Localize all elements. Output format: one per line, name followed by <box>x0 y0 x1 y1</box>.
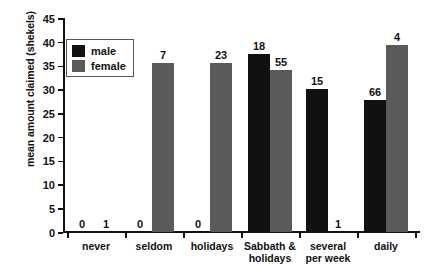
bar-seldom-female: 7 <box>152 63 174 232</box>
y-tick-label-0: 0 <box>49 227 55 239</box>
y-tick-20: 20 <box>58 137 63 139</box>
x-tick-2 <box>183 233 185 238</box>
y-tick-30: 30 <box>58 89 63 91</box>
legend-item-male: male <box>72 43 126 58</box>
x-category-never: never <box>67 240 125 252</box>
x-tick-3 <box>241 233 243 238</box>
y-axis-title: mean amount claimed (shekels) <box>24 0 36 189</box>
bar-several-male: 15 <box>306 89 328 232</box>
x-category-daily: daily <box>357 240 415 252</box>
x-tick-5 <box>357 233 359 238</box>
bar-sabbath-male: 18 <box>248 54 270 232</box>
x-category-sabbath-line1: Sabbath & <box>241 240 299 252</box>
bar-label-never-male: 0 <box>73 218 91 230</box>
x-category-holidays-line1: holidays <box>183 240 241 252</box>
y-tick-label-30: 30 <box>43 84 55 96</box>
x-category-sabbath-holidays: Sabbath & holidays <box>241 240 299 264</box>
y-tick-label-20: 20 <box>43 132 55 144</box>
bar-daily-male: 66 <box>364 100 386 232</box>
y-tick-15: 15 <box>58 161 63 163</box>
x-tick-0 <box>67 233 69 238</box>
y-tick-0: 0 <box>58 232 63 234</box>
x-category-daily-line1: daily <box>357 240 415 252</box>
y-tick-label-35: 35 <box>43 60 55 72</box>
y-axis-line <box>63 18 65 233</box>
y-tick-25: 25 <box>58 113 63 115</box>
legend-swatch-female-icon <box>72 60 85 72</box>
x-category-never-line1: never <box>67 240 125 252</box>
bar-daily-female: 4 <box>386 45 408 232</box>
x-category-seldom: seldom <box>125 240 183 252</box>
y-tick-label-10: 10 <box>43 179 55 191</box>
x-tick-6 <box>415 233 417 238</box>
bar-label-seldom-male: 0 <box>131 218 149 230</box>
bar-label-several-male: 15 <box>311 75 323 87</box>
x-category-seldom-line1: seldom <box>125 240 183 252</box>
x-tick-4 <box>299 233 301 238</box>
x-category-several-per-week: several per week <box>299 240 357 264</box>
bar-label-daily-male: 66 <box>369 86 381 98</box>
x-tick-1 <box>125 233 127 238</box>
bar-label-holidays-male: 0 <box>189 218 207 230</box>
bar-label-daily-female: 4 <box>394 31 400 43</box>
y-tick-35: 35 <box>58 66 63 68</box>
bar-label-holidays-female: 23 <box>215 49 227 61</box>
bar-label-sabbath-male: 18 <box>253 40 265 52</box>
x-category-holidays: holidays <box>183 240 241 252</box>
y-tick-label-25: 25 <box>43 108 55 120</box>
legend-swatch-male-icon <box>72 45 85 57</box>
y-tick-label-15: 15 <box>43 155 55 167</box>
y-tick-label-45: 45 <box>43 13 55 25</box>
y-tick-label-40: 40 <box>43 37 55 49</box>
y-tick-label-5: 5 <box>49 203 55 215</box>
y-tick-40: 40 <box>58 42 63 44</box>
bar-holidays-female: 23 <box>210 63 232 232</box>
bar-label-never-female: 1 <box>97 218 115 230</box>
y-tick-5: 5 <box>58 208 63 210</box>
x-category-several-line2: per week <box>299 252 357 264</box>
bar-label-several-female: 1 <box>329 218 347 230</box>
x-category-several-line1: several <box>299 240 357 252</box>
y-tick-10: 10 <box>58 184 63 186</box>
legend: male female <box>66 39 134 77</box>
legend-item-female: female <box>72 58 126 73</box>
bar-sabbath-female: 55 <box>270 70 292 232</box>
bar-chart: mean amount claimed (shekels) 45 40 35 3… <box>0 0 433 275</box>
legend-label-female: female <box>91 60 126 72</box>
bar-label-seldom-female: 7 <box>160 49 166 61</box>
x-category-sabbath-line2: holidays <box>241 252 299 264</box>
bar-label-sabbath-female: 55 <box>275 56 287 68</box>
y-tick-45: 45 <box>58 18 63 20</box>
legend-label-male: male <box>91 45 116 57</box>
